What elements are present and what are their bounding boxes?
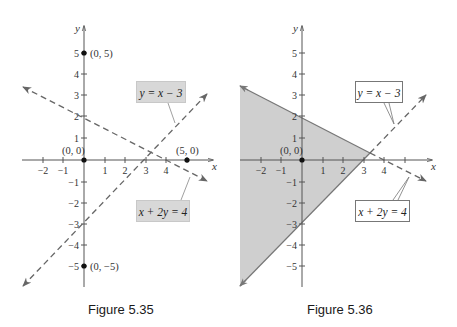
y-tick-label: 3 (292, 90, 297, 101)
x-tick-label: −1 (58, 165, 69, 176)
figure-caption: Figure 5.35 (88, 302, 154, 317)
x-axis-label: x (211, 160, 217, 172)
x-tick-label: −2 (38, 165, 49, 176)
callout-leader-1 (168, 103, 175, 123)
x-tick-label: −1 (276, 165, 287, 176)
x-axis-label: x (430, 160, 436, 172)
x-tick-label: 4 (382, 165, 387, 176)
x-tick-labels: −2 −1 1 2 3 4 (256, 165, 387, 176)
figures-canvas: −2 −1 1 2 3 4 5 4 3 2 1 −1 −2 −3 −4 −5 x… (0, 0, 457, 327)
y-tick-label: −5 (68, 261, 79, 272)
figure-5-35: −2 −1 1 2 3 4 5 4 3 2 1 −1 −2 −3 −4 −5 x… (22, 22, 217, 287)
line-x-plus-2y-eq-4 (370, 153, 426, 181)
callout-leader-1 (384, 103, 394, 124)
y-tick-label: 4 (74, 69, 79, 80)
equation-label-y-eq-x-minus-3: y = x − 3 (136, 81, 186, 103)
point-5-0 (184, 157, 189, 162)
y-tick-label: −3 (286, 219, 297, 230)
y-tick-label: −4 (68, 240, 79, 251)
figure-5-36: −2 −1 1 2 3 4 5 4 3 2 1 −1 −2 −3 −4 −5 x… (240, 22, 436, 287)
y-tick-label: 5 (74, 48, 79, 59)
y-tick-label: 4 (292, 69, 297, 80)
y-tick-label: 3 (74, 90, 79, 101)
y-tick-label: −4 (286, 240, 297, 251)
y-tick-label: 2 (74, 111, 79, 122)
callout-leader-2 (393, 177, 409, 200)
x-tick-label: 1 (103, 165, 108, 176)
y-tick-label: −2 (68, 198, 79, 209)
point-label: (0, 0) (62, 145, 85, 157)
y-tick-label: 2 (292, 111, 297, 122)
y-axis-label: y (292, 22, 298, 34)
figure-caption: Figure 5.36 (307, 302, 373, 317)
y-tick-label: −2 (286, 198, 297, 209)
equation-label-x-plus-2y-eq-4: x + 2y = 4 (355, 200, 410, 222)
y-tick-label: −1 (286, 177, 297, 188)
equation-label-y-eq-x-minus-3: y = x − 3 (355, 81, 403, 103)
line-y-eq-x-minus-3 (23, 94, 207, 286)
y-tick-label: 1 (74, 133, 79, 144)
x-tick-labels: −2 −1 1 2 3 4 (38, 165, 169, 176)
y-tick-label: −1 (68, 177, 79, 188)
point-label: (5, 0) (176, 145, 199, 157)
y-axis-label: y (74, 22, 80, 34)
point-0-neg5 (81, 263, 86, 268)
y-tick-label: 5 (292, 48, 297, 59)
x-tick-label: 3 (144, 165, 149, 176)
x-tick-label: −2 (256, 165, 267, 176)
x-tick-label: 1 (321, 165, 326, 176)
y-tick-label: −3 (68, 219, 79, 230)
point-label: (0, −5) (90, 261, 119, 273)
point-label: (0, 5) (90, 48, 113, 60)
x-tick-label: 2 (123, 165, 128, 176)
equation-label-x-plus-2y-eq-4: x + 2y = 4 (136, 200, 190, 222)
point-origin (299, 157, 304, 162)
x-tick-label: 4 (164, 165, 169, 176)
point-0-5 (81, 50, 86, 55)
y-tick-label: 1 (292, 133, 297, 144)
x-tick-label: 2 (341, 165, 346, 176)
point-origin (81, 157, 86, 162)
callout-leader-2 (181, 177, 190, 200)
point-label: (0, 0) (280, 145, 303, 157)
y-tick-label: −5 (286, 261, 297, 272)
x-tick-label: 3 (362, 165, 367, 176)
